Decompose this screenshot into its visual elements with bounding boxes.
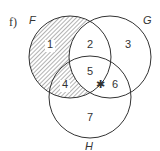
region-label-5: 5 [87, 65, 93, 77]
part-label: f) [9, 15, 17, 29]
star-marker-icon: ✱ [96, 78, 105, 90]
region-label-7: 7 [87, 111, 93, 123]
set-label-g: G [143, 14, 152, 26]
region-label-2: 2 [87, 38, 93, 50]
region-label-1: 1 [47, 38, 53, 50]
venn-diagram: f) F G H 1 2 3 4 5 6 7 ✱ [0, 0, 160, 151]
set-label-h: H [85, 140, 93, 151]
region-label-3: 3 [125, 38, 131, 50]
region-label-6: 6 [112, 78, 118, 90]
shaded-region-f-minus-g [0, 0, 160, 151]
set-label-f: F [29, 14, 37, 26]
region-label-4: 4 [62, 78, 68, 90]
